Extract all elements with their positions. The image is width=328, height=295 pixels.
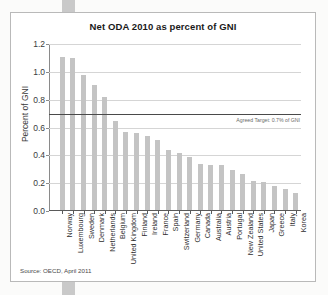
x-axis-category-label: Luxembourg	[76, 213, 85, 253]
x-axis-category-label: Spain	[171, 213, 180, 231]
bar	[293, 193, 298, 210]
y-axis-tick-label: 1.2	[33, 39, 45, 49]
bar	[283, 189, 288, 210]
x-axis-category-label: United States	[256, 213, 265, 256]
bar	[123, 132, 128, 210]
bar	[261, 182, 266, 210]
bars-group	[49, 44, 301, 211]
chart-figure: Net ODA 2010 as percent of GNI Percent o…	[10, 12, 316, 282]
x-axis-category-label: United Kingdom	[129, 213, 138, 264]
chart-title: Net ODA 2010 as percent of GNI	[11, 21, 315, 32]
bar	[134, 133, 139, 210]
bar	[166, 150, 171, 210]
source-note: Source: OECD, April 2011	[20, 267, 91, 274]
page-binding-strip-bottom	[62, 281, 75, 295]
y-axis-tick-label: 0.4	[33, 150, 45, 160]
x-axis-category-label: Korea	[299, 213, 308, 232]
agreed-target-label: Agreed Target: 0.7% of GNI	[236, 117, 300, 123]
bar	[60, 57, 65, 210]
bar	[187, 157, 192, 210]
x-axis-category-label: Germany	[193, 213, 202, 243]
bar	[177, 153, 182, 210]
bar	[81, 75, 86, 210]
bar	[198, 164, 203, 210]
bar	[70, 58, 75, 210]
x-axis-category-label: Netherlands	[108, 213, 117, 252]
agreed-target-line	[49, 114, 301, 115]
bar	[113, 121, 118, 210]
x-axis-category-label: Italy	[288, 213, 297, 226]
bar	[240, 174, 245, 210]
bar	[219, 165, 224, 210]
y-axis-title: Percent of GNI	[20, 74, 30, 154]
x-axis-category-label: Greece	[277, 213, 286, 237]
x-axis-category-labels: NorwayLuxembourgSwedenDenmarkNetherlands…	[49, 213, 301, 273]
bar	[92, 85, 97, 210]
y-axis-tick-label: 0.2	[33, 178, 45, 188]
y-axis-tick-label: 0.0	[33, 206, 45, 216]
x-axis-category-label: Switzerland	[182, 213, 191, 250]
x-axis-category-label: Australia	[214, 213, 223, 241]
x-axis-category-label: Denmark	[97, 213, 106, 242]
y-axis-tick-label: 0.8	[33, 95, 45, 105]
x-axis-category-label: Portugal	[235, 213, 244, 240]
x-axis-category-label: Austria	[224, 213, 233, 235]
y-axis-tick-label: 0.6	[33, 123, 45, 133]
x-axis-category-label: Ireland	[150, 213, 159, 235]
plot-area: 0.00.20.40.60.81.01.2 Agreed Target: 0.7…	[49, 44, 301, 211]
x-axis-category-label: France	[161, 213, 170, 235]
bar	[230, 170, 235, 210]
bar	[272, 186, 277, 210]
y-axis-tick-mark	[46, 211, 49, 212]
bar	[251, 181, 256, 210]
y-axis-tick-label: 1.0	[33, 67, 45, 77]
x-axis-category-label: Norway	[65, 213, 74, 237]
x-axis-category-label: Canada	[203, 213, 212, 238]
x-axis-category-label: Belgium	[118, 213, 127, 239]
bar	[155, 140, 160, 210]
x-axis-category-label: Finland	[140, 213, 149, 237]
x-axis-category-label: Sweden	[87, 213, 96, 239]
bar	[145, 136, 150, 210]
bar	[208, 165, 213, 210]
x-axis-category-label: Japan	[267, 213, 276, 233]
x-axis-category-label: New Zealand	[246, 213, 255, 255]
